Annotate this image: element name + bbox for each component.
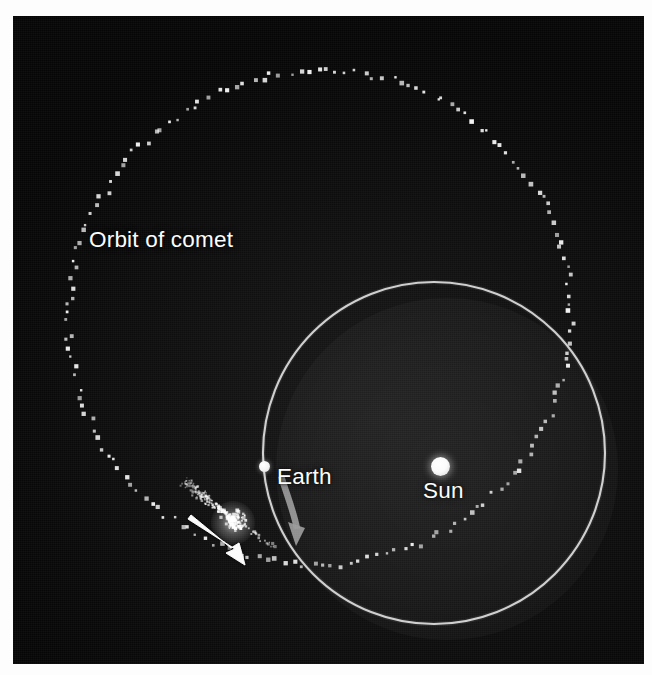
comet-orbit-label: Orbit of comet	[89, 227, 233, 253]
sun-label: Sun	[423, 478, 464, 504]
comet-motion-arrow	[188, 515, 245, 565]
arrow-layer	[13, 16, 644, 664]
astronomy-diagram-plate: Orbit of comet Earth Sun	[13, 16, 644, 664]
earth-body	[259, 461, 270, 472]
earth-label: Earth	[277, 464, 332, 490]
sun-body	[431, 457, 450, 476]
figure-canvas: Orbit of comet Earth Sun	[0, 0, 652, 675]
